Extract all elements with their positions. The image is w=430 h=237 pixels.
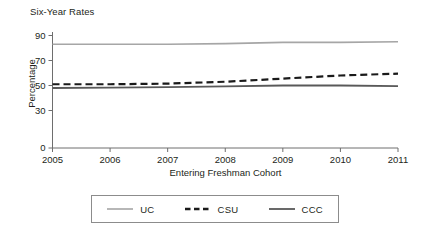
legend-swatch-uc [107, 205, 133, 213]
legend-swatch-csu [185, 205, 211, 213]
legend-label: UC [140, 204, 154, 215]
x-axis-label: Entering Freshman Cohort [53, 167, 398, 178]
series-line-csu [53, 74, 399, 85]
plot-area: 0305070902005200620072008200920102011 [0, 0, 430, 170]
legend-item-ccc: CCC [269, 204, 323, 215]
data-series-layer [53, 42, 399, 88]
legend-item-uc: UC [107, 204, 154, 215]
x-tick-label: 2007 [157, 154, 178, 165]
legend: UCCSUCCC [91, 195, 339, 223]
axis-lines [53, 32, 399, 148]
legend-label: CSU [218, 204, 239, 215]
y-tick-label: 70 [35, 55, 46, 66]
x-tick-label: 2008 [215, 154, 236, 165]
y-tick-label: 50 [35, 80, 46, 91]
axis-ticks [49, 36, 399, 153]
x-tick-label: 2010 [330, 154, 351, 165]
legend-label: CCC [302, 204, 323, 215]
legend-item-csu: CSU [185, 204, 239, 215]
y-tick-label: 30 [35, 105, 46, 116]
x-tick-label: 2006 [100, 154, 121, 165]
series-line-ccc [53, 86, 399, 89]
axis-tick-labels: 0305070902005200620072008200920102011 [35, 30, 408, 165]
series-line-uc [53, 42, 399, 45]
x-tick-label: 2009 [272, 154, 293, 165]
x-tick-label: 2005 [42, 154, 63, 165]
y-tick-label: 0 [40, 142, 45, 153]
chart-figure: Six-Year Rates Percentage 03050709020052… [0, 0, 430, 237]
y-tick-label: 90 [35, 30, 46, 41]
legend-swatch-ccc [269, 205, 295, 213]
x-tick-label: 2011 [388, 154, 408, 165]
